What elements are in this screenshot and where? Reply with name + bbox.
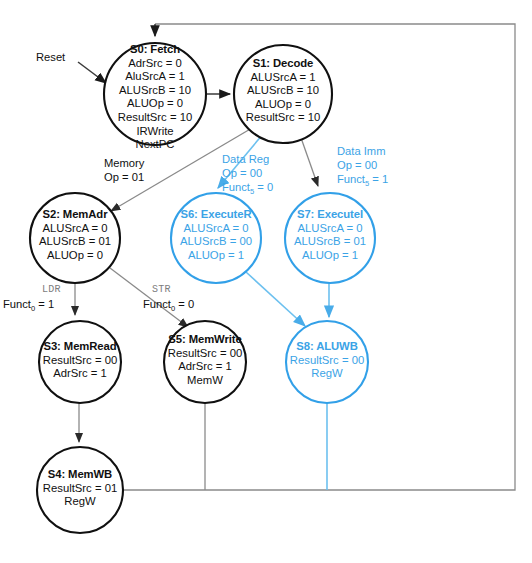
edge-label-data-imm: Data Imm Op = 00 Funct5 = 1 xyxy=(337,144,388,187)
state-circle-s5[interactable] xyxy=(164,321,246,403)
data-reg-line1: Data Reg xyxy=(222,152,273,166)
fsm-edges-svg xyxy=(0,0,532,563)
reset-text: Reset xyxy=(36,51,65,63)
state-circle-s1[interactable] xyxy=(234,45,332,143)
memory-line2: Op = 01 xyxy=(104,170,144,184)
edge-tag-str: STR xyxy=(152,283,171,297)
data-reg-line2: Op = 00 xyxy=(222,166,273,180)
memory-line1: Memory xyxy=(104,156,144,170)
state-circle-s2[interactable] xyxy=(30,193,120,283)
state-circle-s4[interactable] xyxy=(37,447,123,533)
state-circle-s6[interactable] xyxy=(171,193,261,283)
edge-label-data-reg: Data Reg Op = 00 Funct5 = 0 xyxy=(222,152,273,195)
edge-cond-ldr: Funct0 = 1 xyxy=(3,297,54,311)
edge-cond-str: Funct0 = 0 xyxy=(143,297,194,311)
edge-label-reset: Reset xyxy=(36,50,65,64)
data-imm-line3: Funct5 = 1 xyxy=(337,172,388,186)
edge-s1-to-s7 xyxy=(300,135,318,186)
state-circle-s3[interactable] xyxy=(39,321,121,403)
fsm-diagram-canvas: S0: Fetch AdrSrc = 0 AluSrcA = 1 ALUSrcB… xyxy=(0,0,532,563)
edge-label-memory: Memory Op = 01 xyxy=(104,156,144,184)
edge-tag-ldr: LDR xyxy=(42,283,61,297)
state-circle-s0[interactable] xyxy=(104,43,206,145)
state-circle-s8[interactable] xyxy=(286,321,368,403)
state-circle-s7[interactable] xyxy=(285,193,375,283)
data-imm-line2: Op = 00 xyxy=(337,158,388,172)
data-imm-line1: Data Imm xyxy=(337,144,388,158)
edge-s6-to-s8 xyxy=(246,272,305,326)
data-reg-line3: Funct5 = 0 xyxy=(222,180,273,194)
edge-reset-to-s0 xyxy=(78,62,106,83)
